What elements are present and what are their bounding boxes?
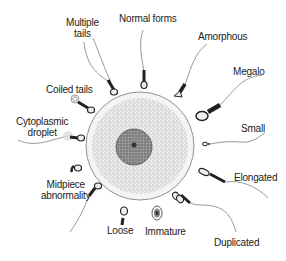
label-megalo: Megalo xyxy=(233,66,265,77)
label-line: Midpiece xyxy=(41,179,91,190)
sperm-amorphous xyxy=(174,44,207,97)
label-elongated: Elongated xyxy=(234,172,277,183)
label-line: Multiple xyxy=(66,17,99,28)
label-immature: Immature xyxy=(145,226,186,237)
sperm-normal xyxy=(141,30,147,89)
label-cytoplasmic-droplet: Cytoplasmic droplet xyxy=(16,116,68,138)
sperm-megalo xyxy=(196,75,262,121)
label-duplicated: Duplicated xyxy=(214,237,259,248)
label-line: tails xyxy=(66,28,99,39)
label-normal-forms: Normal forms xyxy=(119,13,177,24)
sperm-small xyxy=(203,133,266,146)
label-multiple-tails: Multiple tails xyxy=(66,17,99,39)
sperm-coiled-tails xyxy=(71,95,95,113)
sperm-loose xyxy=(121,207,128,225)
label-loose: Loose xyxy=(107,225,133,236)
label-line: abnormality xyxy=(41,190,91,201)
label-line: Cytoplasmic xyxy=(16,116,68,127)
oocyte xyxy=(86,92,194,200)
label-small: Small xyxy=(241,123,265,134)
label-line: droplet xyxy=(16,127,68,138)
label-coiled-tails: Coiled tails xyxy=(46,84,93,95)
sperm-immature xyxy=(152,206,162,220)
label-midpiece-abnormality: Midpiece abnormality xyxy=(41,179,91,201)
label-amorphous: Amorphous xyxy=(198,31,247,42)
